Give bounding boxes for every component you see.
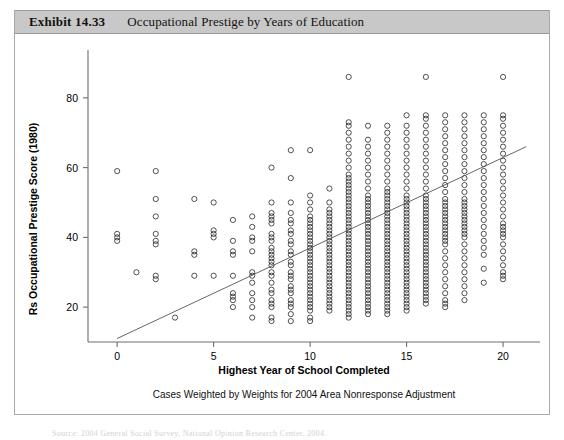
plot-subcaption: Cases Weighted by Weights for 2004 Area … bbox=[153, 389, 456, 400]
data-point bbox=[481, 238, 486, 243]
data-point bbox=[211, 200, 216, 205]
data-point bbox=[385, 158, 390, 163]
data-point bbox=[481, 280, 486, 285]
data-point bbox=[115, 238, 120, 243]
data-point bbox=[269, 305, 274, 310]
data-point bbox=[481, 113, 486, 118]
data-point bbox=[443, 127, 448, 132]
data-point bbox=[250, 298, 255, 303]
data-points bbox=[115, 74, 506, 323]
data-point bbox=[385, 137, 390, 142]
data-point bbox=[385, 151, 390, 156]
data-point bbox=[346, 315, 351, 320]
data-point bbox=[404, 186, 409, 191]
data-point bbox=[443, 249, 448, 254]
data-point bbox=[423, 165, 428, 170]
data-point bbox=[308, 193, 313, 198]
data-point bbox=[346, 151, 351, 156]
data-point bbox=[365, 144, 370, 149]
data-point bbox=[462, 291, 467, 296]
data-point bbox=[443, 189, 448, 194]
data-point bbox=[308, 207, 313, 212]
x-axis-tick-labels: 05101520 bbox=[114, 350, 509, 362]
data-point bbox=[153, 242, 158, 247]
data-point bbox=[308, 308, 313, 313]
data-point bbox=[462, 249, 467, 254]
data-point bbox=[346, 158, 351, 163]
plot-axes bbox=[88, 50, 540, 342]
data-point bbox=[443, 175, 448, 180]
data-point bbox=[385, 130, 390, 135]
data-point bbox=[346, 123, 351, 128]
data-point bbox=[153, 277, 158, 282]
data-point bbox=[250, 224, 255, 229]
data-point bbox=[269, 238, 274, 243]
data-point bbox=[230, 217, 235, 222]
data-point bbox=[269, 273, 274, 278]
data-point bbox=[500, 214, 505, 219]
y-tick-80: 80 bbox=[66, 92, 78, 104]
data-point bbox=[500, 207, 505, 212]
data-point bbox=[404, 123, 409, 128]
data-point bbox=[288, 291, 293, 296]
data-point bbox=[365, 186, 370, 191]
data-point bbox=[500, 193, 505, 198]
data-point bbox=[481, 203, 486, 208]
data-point bbox=[346, 144, 351, 149]
data-point bbox=[462, 141, 467, 146]
data-point bbox=[500, 123, 505, 128]
data-point bbox=[500, 151, 505, 156]
data-point bbox=[481, 168, 486, 173]
data-point bbox=[404, 151, 409, 156]
data-point bbox=[462, 284, 467, 289]
data-point bbox=[404, 130, 409, 135]
data-point bbox=[500, 74, 505, 79]
data-point bbox=[500, 179, 505, 184]
data-point bbox=[443, 291, 448, 296]
x-tick-20: 20 bbox=[497, 350, 509, 362]
data-point bbox=[288, 200, 293, 205]
data-point bbox=[230, 252, 235, 257]
data-point bbox=[443, 168, 448, 173]
y-tick-20: 20 bbox=[66, 301, 78, 313]
data-point bbox=[423, 151, 428, 156]
data-point bbox=[404, 165, 409, 170]
data-point bbox=[462, 298, 467, 303]
data-point bbox=[462, 168, 467, 173]
data-point bbox=[288, 221, 293, 226]
data-point bbox=[462, 120, 467, 125]
x-tick-15: 15 bbox=[401, 350, 413, 362]
data-point bbox=[385, 144, 390, 149]
data-point bbox=[346, 165, 351, 170]
data-point bbox=[250, 315, 255, 320]
y-axis-tick-labels: 20406080 bbox=[66, 92, 78, 313]
data-point bbox=[365, 172, 370, 177]
data-point bbox=[308, 318, 313, 323]
data-point bbox=[365, 165, 370, 170]
data-point bbox=[443, 263, 448, 268]
data-point bbox=[269, 280, 274, 285]
data-point bbox=[443, 148, 448, 153]
data-point bbox=[192, 252, 197, 257]
data-point bbox=[211, 273, 216, 278]
scatter-plot-canvas: 05101520 20406080 Highest Year of School… bbox=[15, 34, 549, 413]
data-point bbox=[365, 123, 370, 128]
data-point bbox=[462, 148, 467, 153]
data-point bbox=[346, 137, 351, 142]
source-note: Source: 2004 General Social Survey, Nati… bbox=[52, 429, 326, 438]
data-point bbox=[288, 277, 293, 282]
data-point bbox=[288, 148, 293, 153]
y-tick-40: 40 bbox=[66, 231, 78, 243]
data-point bbox=[462, 235, 467, 240]
data-point bbox=[327, 308, 332, 313]
x-tick-0: 0 bbox=[114, 350, 120, 362]
data-point bbox=[443, 141, 448, 146]
data-point bbox=[423, 130, 428, 135]
data-point bbox=[269, 165, 274, 170]
data-point bbox=[288, 318, 293, 323]
data-point bbox=[385, 165, 390, 170]
data-point bbox=[481, 217, 486, 222]
data-point bbox=[462, 162, 467, 167]
data-point bbox=[327, 186, 332, 191]
data-point bbox=[423, 137, 428, 142]
